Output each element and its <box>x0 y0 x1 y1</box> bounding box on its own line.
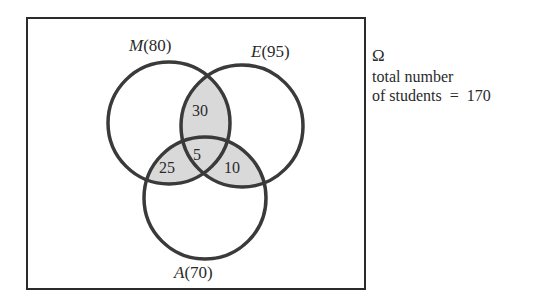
set-label-a: A(70) <box>174 264 213 281</box>
set-count-e: (95) <box>261 42 289 61</box>
set-letter-a: A <box>174 263 184 282</box>
region-m-e-only: 30 <box>192 103 208 119</box>
region-m-e-a: 5 <box>193 147 201 163</box>
omega-symbol: Ω <box>372 46 491 65</box>
set-count-m: (80) <box>143 36 171 55</box>
region-e-a-only: 10 <box>224 160 240 176</box>
set-letter-m: M <box>129 36 143 55</box>
total-students-value: 170 <box>467 87 491 104</box>
total-note-equals: = <box>450 87 459 104</box>
set-letter-e: E <box>251 42 261 61</box>
universe-note: Ω total number of students = 170 <box>372 46 491 105</box>
total-note-prefix: of students <box>372 87 442 104</box>
set-label-m: M(80) <box>129 37 172 54</box>
set-label-e: E(95) <box>251 43 290 60</box>
total-note-line1: total number <box>372 67 491 86</box>
set-count-a: (70) <box>184 263 212 282</box>
region-m-a-only: 25 <box>159 160 175 176</box>
total-note-line2: of students = 170 <box>372 86 491 105</box>
